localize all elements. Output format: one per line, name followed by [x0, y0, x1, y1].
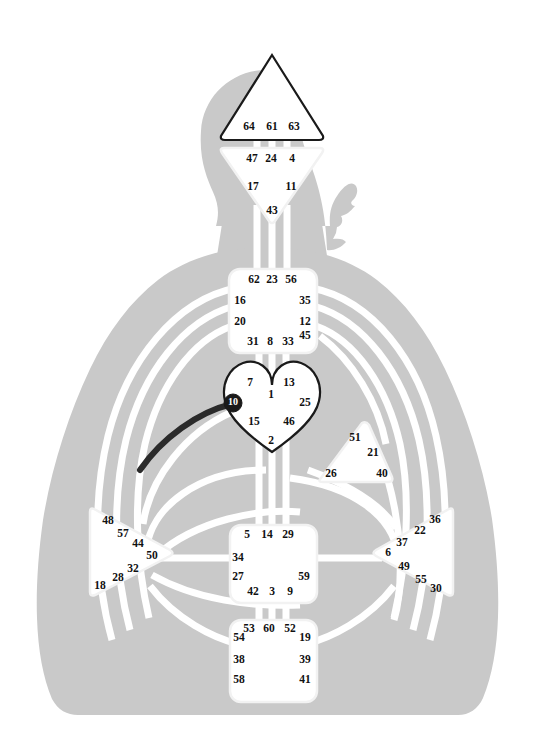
gate-54[interactable]: 54 [233, 631, 245, 643]
gate-6[interactable]: 6 [385, 546, 391, 558]
gate-58[interactable]: 58 [233, 673, 245, 685]
gate-63[interactable]: 63 [288, 120, 300, 132]
gate-36[interactable]: 36 [429, 513, 441, 525]
gate-55[interactable]: 55 [415, 573, 427, 585]
gate-62[interactable]: 62 [248, 273, 260, 285]
gate-59[interactable]: 59 [298, 570, 310, 582]
gate-8[interactable]: 8 [267, 335, 273, 347]
gate-27[interactable]: 27 [232, 570, 244, 582]
gate-39[interactable]: 39 [299, 653, 311, 665]
gate-29[interactable]: 29 [282, 528, 294, 540]
gate-1[interactable]: 1 [268, 388, 274, 400]
gate-50[interactable]: 50 [146, 549, 158, 561]
gate-10[interactable]: 10 [228, 396, 238, 407]
gate-42[interactable]: 42 [247, 585, 259, 597]
gate-7[interactable]: 7 [247, 376, 253, 388]
gate-12[interactable]: 12 [299, 315, 311, 327]
gate-13[interactable]: 13 [283, 376, 295, 388]
gate-41[interactable]: 41 [299, 673, 311, 685]
center-throat[interactable]: 62 23 56 16 35 20 12 31 8 33 45 [229, 269, 317, 353]
gate-35[interactable]: 35 [299, 294, 311, 306]
gate-21[interactable]: 21 [367, 446, 379, 458]
gate-33[interactable]: 33 [282, 335, 294, 347]
gate-51[interactable]: 51 [349, 431, 361, 443]
gate-37[interactable]: 37 [396, 536, 408, 548]
gate-53[interactable]: 53 [243, 622, 255, 634]
gate-4[interactable]: 4 [289, 152, 295, 164]
gate-14[interactable]: 14 [261, 528, 273, 540]
gate-48[interactable]: 48 [102, 514, 114, 526]
bodygraph-chart: 64 61 63 47 24 4 17 11 43 62 23 56 16 35… [0, 0, 534, 751]
gate-34[interactable]: 34 [232, 551, 244, 563]
gate-46[interactable]: 46 [283, 415, 295, 427]
center-sacral[interactable]: 5 14 29 34 27 59 42 3 9 [230, 525, 317, 603]
gate-47[interactable]: 47 [246, 152, 258, 164]
gate-22[interactable]: 22 [414, 524, 426, 536]
gate-30[interactable]: 30 [430, 582, 442, 594]
gate-64[interactable]: 64 [243, 120, 255, 132]
gate-25[interactable]: 25 [299, 396, 311, 408]
gate-61[interactable]: 61 [266, 120, 278, 132]
gate-18[interactable]: 18 [94, 579, 106, 591]
gate-57[interactable]: 57 [117, 527, 129, 539]
gate-38[interactable]: 38 [233, 653, 245, 665]
center-root[interactable]: 53 60 52 54 19 38 39 58 41 [230, 620, 317, 702]
gate-23[interactable]: 23 [266, 273, 278, 285]
gate-3[interactable]: 3 [269, 585, 275, 597]
gate-19[interactable]: 19 [299, 631, 311, 643]
gate-56[interactable]: 56 [285, 273, 297, 285]
gate-43[interactable]: 43 [266, 204, 278, 216]
gate-15[interactable]: 15 [248, 415, 260, 427]
gate-20[interactable]: 20 [234, 315, 246, 327]
gate-52[interactable]: 52 [284, 622, 296, 634]
gate-5[interactable]: 5 [244, 528, 250, 540]
gate-16[interactable]: 16 [234, 294, 246, 306]
gate-32[interactable]: 32 [127, 562, 139, 574]
gate-2[interactable]: 2 [268, 434, 274, 446]
gate-28[interactable]: 28 [112, 571, 124, 583]
gate-17[interactable]: 17 [247, 180, 259, 192]
gate-40[interactable]: 40 [376, 467, 388, 479]
gate-49[interactable]: 49 [398, 560, 410, 572]
gate-9[interactable]: 9 [287, 585, 293, 597]
gate-11[interactable]: 11 [286, 180, 297, 192]
gate-60[interactable]: 60 [263, 622, 275, 634]
gate-31[interactable]: 31 [247, 335, 259, 347]
gate-24[interactable]: 24 [265, 152, 277, 164]
gate-45[interactable]: 45 [299, 329, 311, 341]
gate-26[interactable]: 26 [325, 467, 337, 479]
gate-44[interactable]: 44 [132, 537, 144, 549]
